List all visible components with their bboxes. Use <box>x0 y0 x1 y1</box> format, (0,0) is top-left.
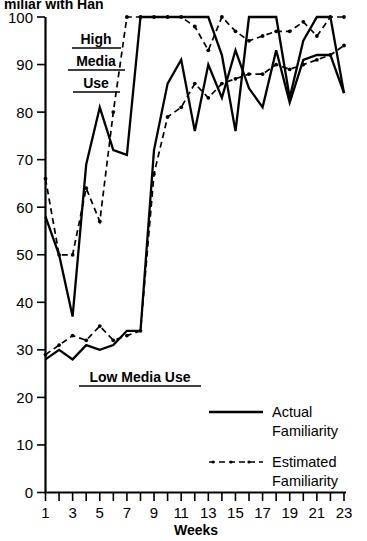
series-1-marker-14 <box>234 29 238 33</box>
low-media-use-label: Low Media Use <box>89 369 190 385</box>
series-3-marker-15 <box>247 72 251 76</box>
y-tick-label-70: 70 <box>16 151 33 168</box>
series-3-marker-5 <box>111 338 115 342</box>
series-1-marker-19 <box>301 20 305 24</box>
series-3-marker-21 <box>329 53 333 57</box>
series-path-2 <box>46 50 345 359</box>
x-tick-label-15: 15 <box>227 504 244 521</box>
y-tick-label-50: 50 <box>16 246 33 263</box>
series-3-marker-22 <box>342 44 346 48</box>
x-tick-label-9: 9 <box>150 504 158 521</box>
series-1-marker-6 <box>125 15 129 19</box>
series-1-marker-3 <box>84 186 88 190</box>
series-1-marker-13 <box>220 15 224 19</box>
y-tick-label-60: 60 <box>16 199 33 216</box>
series-3-marker-12 <box>206 96 210 100</box>
x-tick-label-13: 13 <box>200 504 217 521</box>
x-axis: 1357911131517192123 <box>41 492 352 521</box>
familiarity-line-chart: miliar with Han 0102030405060708090100 1… <box>0 0 367 541</box>
series-3-marker-17 <box>274 63 278 67</box>
series-1-marker-5 <box>111 110 115 114</box>
series-1-marker-8 <box>152 15 156 19</box>
series-1-marker-16 <box>261 34 265 38</box>
series-1-marker-2 <box>71 253 75 257</box>
series-1-marker-21 <box>329 15 333 19</box>
series-3-marker-13 <box>220 82 224 86</box>
x-axis-title: Weeks <box>174 522 218 538</box>
chart-canvas: miliar with Han 0102030405060708090100 1… <box>0 0 367 541</box>
series-1-marker-18 <box>288 29 292 33</box>
series-3-marker-1 <box>57 343 61 347</box>
series-1-marker-10 <box>179 15 183 19</box>
y-tick-label-30: 30 <box>16 341 33 358</box>
x-tick-label-5: 5 <box>96 504 104 521</box>
legend-dot-3 <box>247 460 250 463</box>
series-3-marker-2 <box>71 334 75 338</box>
y-tick-label-80: 80 <box>16 104 33 121</box>
high-media-use-line-1: High <box>80 31 111 47</box>
x-tick-label-19: 19 <box>281 504 298 521</box>
series-1-marker-7 <box>139 15 143 19</box>
y-tick-label-10: 10 <box>16 436 33 453</box>
x-tick-label-11: 11 <box>173 504 189 521</box>
series-3-marker-18 <box>288 67 292 71</box>
series-1-marker-1 <box>57 253 61 257</box>
legend-label-estimated-line1: Estimated <box>272 454 336 470</box>
series-3-marker-6 <box>125 334 129 338</box>
y-tick-label-100: 100 <box>8 9 33 26</box>
series-3-marker-7 <box>139 329 143 333</box>
legend-dot-1 <box>211 460 214 463</box>
y-tick-label-20: 20 <box>16 389 33 406</box>
legend-label-estimated-line2: Familiarity <box>272 473 339 489</box>
y-axis: 0102030405060708090100 <box>8 9 45 502</box>
series-1-marker-0 <box>44 177 48 181</box>
x-tick-label-17: 17 <box>254 504 271 521</box>
high-media-use-annotation: High Media Use <box>68 31 125 92</box>
series-3-marker-20 <box>315 58 319 62</box>
x-tick-label-7: 7 <box>123 504 131 521</box>
series-3-marker-11 <box>193 82 197 86</box>
chart-legend: Actual Familiarity Estimated Familiarity <box>209 404 339 489</box>
legend-dot-2 <box>229 460 232 463</box>
y-tick-label-0: 0 <box>25 484 33 501</box>
high-media-use-line-3: Use <box>83 75 109 91</box>
series-1-marker-22 <box>342 15 346 19</box>
series-1-marker-15 <box>247 39 251 43</box>
y-tick-label-90: 90 <box>16 56 33 73</box>
series-3-marker-4 <box>98 324 102 328</box>
legend-label-actual-line2: Familiarity <box>272 423 339 439</box>
high-media-use-line-2: Media <box>76 53 116 69</box>
series-1-marker-11 <box>193 25 197 29</box>
series-3-marker-19 <box>301 63 305 67</box>
series-3-marker-3 <box>84 338 88 342</box>
series-1-marker-9 <box>166 15 170 19</box>
series-1-marker-12 <box>206 48 210 52</box>
series-3-marker-16 <box>261 72 265 76</box>
y-tick-label-40: 40 <box>16 294 33 311</box>
series-3-marker-0 <box>44 353 48 357</box>
x-tick-label-23: 23 <box>336 504 353 521</box>
series-1-marker-4 <box>98 220 102 224</box>
x-tick-label-1: 1 <box>41 504 49 521</box>
x-tick-label-3: 3 <box>68 504 76 521</box>
series-1-marker-17 <box>274 29 278 33</box>
x-tick-label-21: 21 <box>309 504 326 521</box>
series-1-marker-20 <box>315 34 319 38</box>
low-media-use-annotation: Low Media Use <box>79 369 201 386</box>
series-3-marker-9 <box>166 115 170 119</box>
series-3-marker-10 <box>179 105 183 109</box>
legend-label-actual-line1: Actual <box>272 404 312 420</box>
series-3-marker-14 <box>234 77 238 81</box>
series-3-marker-8 <box>152 172 156 176</box>
